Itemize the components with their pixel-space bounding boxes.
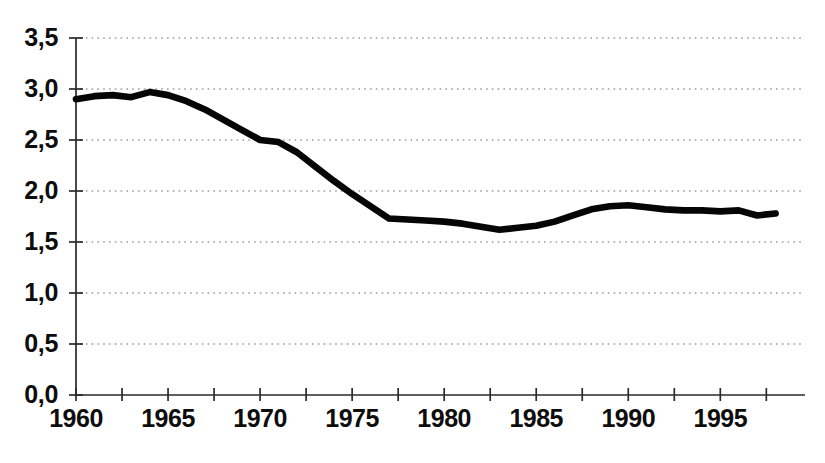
x-axis-tick-labels: 19601965197019751980198519901995 xyxy=(49,404,748,432)
x-axis-tick-label: 1965 xyxy=(141,404,195,432)
y-axis-tick-label: 2,0 xyxy=(24,176,58,204)
x-axis-tick-label: 1980 xyxy=(417,404,471,432)
x-axis-tick-label: 1985 xyxy=(509,404,563,432)
y-axis-tick-label: 3,0 xyxy=(24,74,58,102)
y-axis-tick-labels: 0,00,51,01,52,02,53,03,5 xyxy=(24,23,58,408)
y-axis-tick-label: 0,5 xyxy=(24,329,58,357)
axes xyxy=(69,38,805,395)
y-axis-tick-label: 2,5 xyxy=(24,125,58,153)
y-axis-tick-label: 1,5 xyxy=(24,227,58,255)
x-axis-tick-label: 1970 xyxy=(233,404,287,432)
data-line xyxy=(76,92,776,230)
chart-container: 0,00,51,01,52,02,53,03,5 196019651970197… xyxy=(0,0,825,463)
y-axis-tick-label: 1,0 xyxy=(24,278,58,306)
x-axis-tick-label: 1975 xyxy=(325,404,379,432)
gridlines xyxy=(80,38,805,344)
x-axis-tick-label: 1960 xyxy=(49,404,103,432)
line-chart: 0,00,51,01,52,02,53,03,5 196019651970197… xyxy=(0,0,825,463)
x-axis-tick-label: 1990 xyxy=(601,404,655,432)
y-axis-tick-label: 3,5 xyxy=(24,23,58,51)
x-axis-tick-label: 1995 xyxy=(694,404,748,432)
y-axis-tick-label: 0,0 xyxy=(24,380,58,408)
data-series xyxy=(76,92,776,230)
